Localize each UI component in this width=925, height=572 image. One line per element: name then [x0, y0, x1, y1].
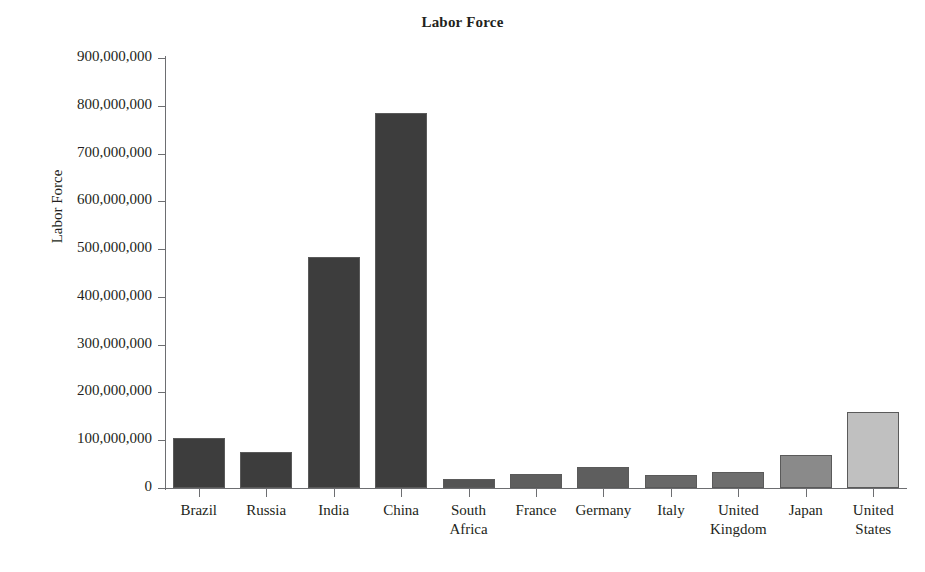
- x-axis-tick-label-line: India: [300, 501, 367, 520]
- y-axis-tick-label: 300,000,000: [12, 335, 152, 352]
- x-axis-tick: [469, 489, 470, 497]
- y-axis-tick-label: 600,000,000: [12, 191, 152, 208]
- x-axis-tick-label-line: Germany: [570, 501, 637, 520]
- y-axis-tick: [158, 154, 166, 155]
- bar: [577, 467, 629, 489]
- bar: [510, 474, 562, 488]
- y-axis-tick-labels: 0100,000,000200,000,000300,000,000400,00…: [6, 0, 152, 572]
- x-axis-tick-label: SouthAfrica: [435, 501, 502, 539]
- x-axis-tick-label: India: [300, 501, 367, 520]
- x-axis-tick-label: UnitedStates: [840, 501, 907, 539]
- y-axis-tick-label: 800,000,000: [12, 96, 152, 113]
- x-axis-tick-label-line: Italy: [637, 501, 704, 520]
- bar: [443, 479, 495, 488]
- bar: [712, 472, 764, 488]
- x-axis-tick-label: Germany: [570, 501, 637, 520]
- x-axis-tick-label-line: Kingdom: [705, 520, 772, 539]
- x-axis-tick: [199, 489, 200, 497]
- x-axis-tick-label: China: [367, 501, 434, 520]
- y-axis-tick-label: 500,000,000: [12, 239, 152, 256]
- bar: [240, 452, 292, 488]
- bar: [847, 412, 899, 488]
- y-axis-tick: [158, 58, 166, 59]
- y-axis-tick: [158, 440, 166, 441]
- bar: [780, 455, 832, 488]
- y-axis-tick: [158, 392, 166, 393]
- x-axis-tick-label: UnitedKingdom: [705, 501, 772, 539]
- x-axis-tick-label: Japan: [772, 501, 839, 520]
- bar: [308, 257, 360, 488]
- x-axis-tick: [334, 489, 335, 497]
- y-axis-tick: [158, 345, 166, 346]
- x-axis-tick-label-line: France: [502, 501, 569, 520]
- y-axis-tick: [158, 106, 166, 107]
- x-axis-tick: [738, 489, 739, 497]
- y-axis-tick-label: 200,000,000: [12, 382, 152, 399]
- x-axis-tick-label: Russia: [232, 501, 299, 520]
- y-axis-tick: [158, 249, 166, 250]
- x-axis-tick-label-line: Brazil: [165, 501, 232, 520]
- x-axis-tick-label-line: Japan: [772, 501, 839, 520]
- x-axis-tick: [266, 489, 267, 497]
- y-axis-tick-label: 700,000,000: [12, 144, 152, 161]
- bar-chart: Labor Force Labor Force 0100,000,000200,…: [0, 0, 925, 572]
- bar: [375, 113, 427, 488]
- y-axis-tick: [158, 488, 166, 489]
- x-axis-tick-label-line: United: [840, 501, 907, 520]
- x-axis-tick-label: France: [502, 501, 569, 520]
- x-axis-tick-label-line: States: [840, 520, 907, 539]
- x-axis-tick: [536, 489, 537, 497]
- y-axis-tick-label: 0: [12, 478, 152, 495]
- y-axis-tick: [158, 297, 166, 298]
- x-axis-tick-label-line: Africa: [435, 520, 502, 539]
- y-axis-tick-label: 900,000,000: [12, 48, 152, 65]
- x-axis-tick-label-line: Russia: [232, 501, 299, 520]
- x-axis-tick-label: Italy: [637, 501, 704, 520]
- x-axis-tick: [603, 489, 604, 497]
- x-axis-tick: [806, 489, 807, 497]
- x-axis-tick-label-line: South: [435, 501, 502, 520]
- x-axis-tick-label: Brazil: [165, 501, 232, 520]
- x-axis-tick: [873, 489, 874, 497]
- x-axis-tick: [671, 489, 672, 497]
- y-axis-tick-label: 400,000,000: [12, 287, 152, 304]
- bar: [173, 438, 225, 488]
- bar: [645, 475, 697, 488]
- y-axis-tick-label: 100,000,000: [12, 430, 152, 447]
- x-axis-tick-label-line: United: [705, 501, 772, 520]
- plot-area: [165, 58, 905, 488]
- x-axis-tick-label-line: China: [367, 501, 434, 520]
- y-axis-tick: [158, 201, 166, 202]
- x-axis-tick: [401, 489, 402, 497]
